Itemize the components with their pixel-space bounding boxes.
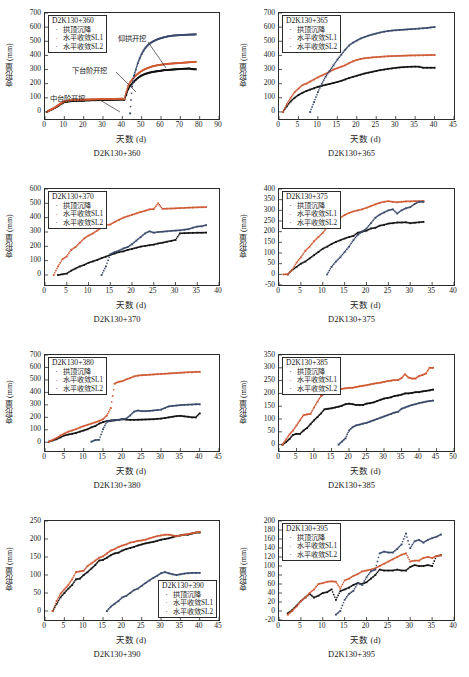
plot-area: D2K130+365·拱顶沉降·水平收敛SL1·水平收敛SL2 bbox=[278, 12, 455, 120]
x-tick-label: 30 bbox=[165, 286, 185, 295]
y-tick-label: 100 bbox=[248, 561, 275, 570]
legend-marker-icon: · bbox=[286, 534, 295, 542]
legend-title: D2K130+380 bbox=[52, 359, 103, 368]
plot-area: D2K130+385·拱顶沉降·水平收敛SL1·水平收敛SL2 bbox=[278, 354, 455, 452]
panel-p365: 变形量 (mm)D2K130+365·拱顶沉降·水平收敛SL1·水平收敛SL20… bbox=[234, 0, 469, 176]
y-tick-label: 120 bbox=[248, 552, 275, 561]
legend-title: D2K130+370 bbox=[52, 193, 103, 202]
panel-caption: D2K130+370 bbox=[0, 314, 234, 324]
y-tick-label: 0 bbox=[248, 269, 275, 278]
y-tick-label: 100 bbox=[248, 92, 275, 101]
panel-p375: 变形量 (mm)D2K130+375·拱顶沉降·水平收敛SL1·水平收敛SL2-… bbox=[234, 176, 469, 342]
legend-item-2: ·水平收敛SL1 bbox=[52, 376, 103, 384]
y-tick-label: 400 bbox=[248, 50, 275, 59]
y-tick-label: 250 bbox=[14, 516, 41, 525]
y-tick-label: 500 bbox=[248, 36, 275, 45]
x-tick-label: 0 bbox=[268, 120, 288, 129]
x-tick-label: 20 bbox=[356, 286, 376, 295]
x-tick-label: 10 bbox=[307, 120, 327, 129]
legend-title: D2K130+365 bbox=[286, 17, 337, 26]
legend-label: 拱顶沉降 bbox=[173, 591, 201, 599]
y-tick-label: 100 bbox=[14, 255, 41, 264]
x-tick-label: 35 bbox=[169, 452, 189, 461]
y-tick-label: 500 bbox=[14, 36, 41, 45]
legend-marker-icon: · bbox=[286, 43, 295, 51]
x-tick-label: 30 bbox=[399, 621, 419, 630]
panel-p385: 变形量 (mm)D2K130+385·拱顶沉降·水平收敛SL1·水平收敛SL20… bbox=[234, 342, 469, 508]
y-tick-label: 350 bbox=[248, 194, 275, 203]
y-tick-label: 50 bbox=[248, 426, 275, 435]
panel-caption: D2K130+390 bbox=[0, 649, 234, 659]
legend-label: 水平收敛SL2 bbox=[297, 551, 337, 559]
x-tick-label: 30 bbox=[385, 120, 405, 129]
legend-item-3: ·水平收敛SL2 bbox=[286, 43, 337, 51]
x-tick-label: 30 bbox=[150, 452, 170, 461]
legend: D2K130+380·拱顶沉降·水平收敛SL1·水平收敛SL2 bbox=[48, 357, 107, 395]
series-拱顶沉降 bbox=[287, 554, 442, 614]
legend-marker-icon: · bbox=[52, 368, 61, 376]
annotation-3: 中台阶开挖 bbox=[50, 92, 85, 103]
y-tick-label: 200 bbox=[248, 226, 275, 235]
x-tick-label: 10 bbox=[73, 452, 93, 461]
x-axis-label: 天数 (d) bbox=[278, 633, 453, 645]
y-tick-label: 500 bbox=[14, 198, 41, 207]
legend-marker-icon: · bbox=[52, 385, 61, 393]
series-拱顶沉降 bbox=[282, 389, 434, 446]
x-tick-label: 10 bbox=[73, 621, 93, 630]
x-tick-label: 45 bbox=[208, 452, 228, 461]
series-水平收敛SL2 bbox=[129, 33, 197, 114]
x-tick-label: 20 bbox=[346, 120, 366, 129]
x-tick-label: 40 bbox=[443, 621, 463, 630]
legend-marker-icon: · bbox=[286, 368, 295, 376]
series-拱顶沉降 bbox=[46, 68, 197, 113]
legend-marker-icon: · bbox=[286, 202, 295, 210]
y-tick-label: 0 bbox=[14, 269, 41, 278]
x-tick-label: 25 bbox=[377, 286, 397, 295]
x-tick-label: 30 bbox=[92, 120, 112, 129]
y-tick-label: 200 bbox=[14, 534, 41, 543]
y-tick-label: 0 bbox=[248, 106, 275, 115]
x-tick-label: 40 bbox=[189, 621, 209, 630]
x-tick-label: 0 bbox=[34, 452, 54, 461]
legend-marker-icon: · bbox=[286, 26, 295, 34]
y-tick-label: 50 bbox=[248, 258, 275, 267]
legend-label: 水平收敛SL2 bbox=[297, 385, 337, 393]
y-tick-label: 300 bbox=[248, 64, 275, 73]
y-tick-label: 300 bbox=[14, 399, 41, 408]
panel-p370: 变形量 (mm)D2K130+370·拱顶沉降·水平收敛SL1·水平收敛SL20… bbox=[0, 176, 234, 342]
y-tick-label: 80 bbox=[248, 570, 275, 579]
x-tick-label: 10 bbox=[312, 621, 332, 630]
y-tick-label: 200 bbox=[14, 241, 41, 250]
x-tick-label: 20 bbox=[356, 621, 376, 630]
x-tick-label: 5 bbox=[290, 286, 310, 295]
legend-marker-icon: · bbox=[286, 551, 295, 559]
y-tick-label: 250 bbox=[248, 216, 275, 225]
x-tick-label: 20 bbox=[111, 621, 131, 630]
x-tick-label: 20 bbox=[111, 452, 131, 461]
panel-caption: D2K130+365 bbox=[234, 148, 469, 158]
legend-marker-icon: · bbox=[286, 385, 295, 393]
x-tick-label: 60 bbox=[150, 120, 170, 129]
panel-p360: 变形量 (mm)D2K130+360·拱顶沉降·水平收敛SL1·水平收敛SL20… bbox=[0, 0, 234, 176]
legend-marker-icon: · bbox=[162, 608, 171, 616]
y-tick-label: 400 bbox=[14, 387, 41, 396]
x-tick-label: 0 bbox=[268, 621, 288, 630]
y-tick-label: 300 bbox=[248, 362, 275, 371]
y-tick-label: 0 bbox=[248, 439, 275, 448]
x-tick-label: 50 bbox=[443, 452, 463, 461]
legend-marker-icon: · bbox=[52, 26, 61, 34]
legend-item-1: ·拱顶沉降 bbox=[162, 591, 213, 599]
x-tick-label: 50 bbox=[131, 120, 151, 129]
x-axis-label: 天数 (d) bbox=[44, 464, 218, 476]
legend-label: 水平收敛SL1 bbox=[63, 210, 103, 218]
series-拱顶沉降 bbox=[282, 66, 436, 113]
y-tick-label: 180 bbox=[248, 525, 275, 534]
y-tick-label: 700 bbox=[248, 8, 275, 17]
x-tick-label: 15 bbox=[334, 286, 354, 295]
x-tick-label: 10 bbox=[312, 286, 332, 295]
figure-sheet: 变形量 (mm)D2K130+360·拱顶沉降·水平收敛SL1·水平收敛SL20… bbox=[0, 0, 469, 677]
y-tick-label: 160 bbox=[248, 534, 275, 543]
y-tick-label: 400 bbox=[248, 184, 275, 193]
x-axis-label: 天数 (d) bbox=[278, 464, 453, 476]
x-tick-label: 5 bbox=[287, 120, 307, 129]
